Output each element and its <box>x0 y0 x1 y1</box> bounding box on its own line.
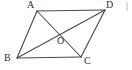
vertex-label-o: O <box>57 36 64 46</box>
vertex-label-d: D <box>106 0 113 10</box>
side-BC-line <box>17 57 81 58</box>
diagonal-AC-line <box>37 11 81 57</box>
vertex-label-b: B <box>4 53 11 63</box>
side-AD-line <box>37 10 105 11</box>
vertex-label-c: C <box>84 56 91 66</box>
geometry-figure: A D B C O <box>0 0 132 70</box>
vertex-label-a: A <box>27 0 34 10</box>
geometry-canvas <box>0 0 132 70</box>
diagonal-BD-line <box>17 10 105 58</box>
side-AB-line <box>17 11 37 58</box>
right-edge-artifact <box>126 2 128 11</box>
